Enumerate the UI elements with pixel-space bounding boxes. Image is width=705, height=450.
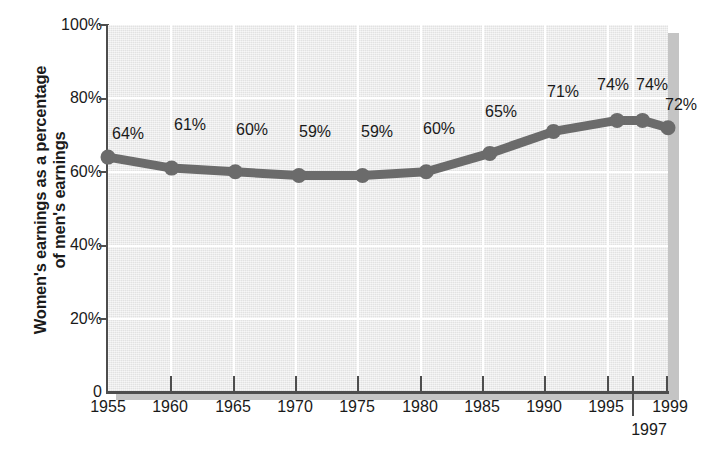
gridline-vertical-1960 (170, 25, 172, 392)
y-tick-mark-60 (99, 171, 107, 173)
gridline-vertical-1985 (482, 25, 484, 392)
x-tick-label-1960: 1960 (152, 399, 188, 415)
y-tick-mark-40 (99, 245, 107, 247)
plot-area-shadow-right (668, 33, 679, 400)
x-tick-label-1980: 1980 (402, 399, 438, 415)
data-label-1960: 61% (174, 117, 206, 133)
x-tick-label-1995: 1995 (588, 399, 624, 415)
gridline-vertical-1980 (420, 25, 422, 392)
data-label-1970: 59% (299, 124, 331, 140)
gridline-vertical-1970 (295, 25, 297, 392)
x-tick-mark-1995 (607, 376, 609, 392)
y-tick-label-80: 80% (52, 90, 102, 106)
y-tick-mark-20 (99, 318, 107, 320)
data-label-1975: 59% (361, 124, 393, 140)
data-label-1997: 74% (636, 77, 668, 93)
x-tick-mark-1980 (420, 376, 422, 392)
gridline-horizontal-60 (108, 171, 668, 173)
y-axis-title-line-1: Women's earnings as a percentage (31, 66, 50, 335)
x-tick-mark-1965 (233, 376, 235, 392)
x-tick-label-1985: 1985 (464, 399, 500, 415)
y-tick-label-40: 40% (52, 237, 102, 253)
y-tick-mark-100 (99, 24, 107, 26)
x-axis-line (106, 391, 669, 394)
x-tick-mark-1975 (357, 376, 359, 392)
x-tick-label-1999: 1999 (652, 399, 688, 415)
y-axis-tick-labels: 100% 80% 60% 40% 20% 0 (52, 0, 102, 450)
line-chart-figure: Women's earnings as a percentage of men'… (0, 0, 705, 450)
x-tick-label-1975: 1975 (339, 399, 375, 415)
x-tick-label-1970: 1970 (277, 399, 313, 415)
data-label-1995: 74% (597, 77, 629, 93)
y-tick-label-60: 60% (52, 164, 102, 180)
gridline-horizontal-20 (108, 318, 668, 320)
data-label-1999: 72% (665, 97, 697, 113)
gridline-vertical-1997 (632, 25, 634, 392)
gridline-horizontal-40 (108, 245, 668, 247)
x-tick-label-1965: 1965 (215, 399, 251, 415)
x-tick-label-1990: 1990 (526, 399, 562, 415)
plot-area (108, 25, 668, 392)
x-tick-mark-1999 (666, 376, 668, 392)
y-tick-label-20: 20% (52, 311, 102, 327)
x-tick-mark-1997 (632, 376, 634, 416)
data-label-1980: 60% (423, 121, 455, 137)
gridline-vertical-1965 (233, 25, 235, 392)
data-label-1985: 65% (485, 104, 517, 120)
gridline-horizontal-80 (108, 97, 668, 99)
data-label-1990: 71% (547, 84, 579, 100)
y-tick-label-100: 100% (52, 17, 102, 33)
x-tick-mark-1970 (295, 376, 297, 392)
data-label-1965: 60% (236, 122, 268, 138)
x-tick-label-1997: 1997 (631, 422, 667, 438)
x-tick-mark-1985 (482, 376, 484, 392)
gridline-vertical-1990 (544, 25, 546, 392)
x-tick-mark-1960 (170, 376, 172, 392)
y-tick-mark-80 (99, 98, 107, 100)
gridline-vertical-1975 (357, 25, 359, 392)
x-tick-mark-1990 (544, 376, 546, 392)
data-label-1955: 64% (112, 126, 144, 142)
x-tick-label-1955: 1955 (90, 399, 126, 415)
